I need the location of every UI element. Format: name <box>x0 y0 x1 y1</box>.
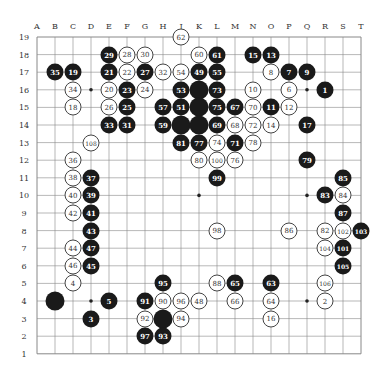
column-label: Q <box>304 22 311 31</box>
white-stone: 66 <box>227 293 244 310</box>
white-stone: 12 <box>281 99 298 116</box>
white-stone: 102 <box>335 222 352 239</box>
row-label: 11 <box>19 173 29 182</box>
black-stone <box>172 116 191 135</box>
white-stone: 74 <box>209 134 226 151</box>
black-stone: 31 <box>119 117 136 134</box>
black-stone: 61 <box>209 46 226 63</box>
white-stone: 44 <box>65 240 82 257</box>
white-stone: 36 <box>65 152 82 169</box>
black-stone: 67 <box>227 99 244 116</box>
white-stone: 8 <box>263 64 280 81</box>
black-stone: 83 <box>317 187 334 204</box>
white-stone: 88 <box>209 275 226 292</box>
column-label: H <box>160 22 167 31</box>
black-stone: 75 <box>209 99 226 116</box>
black-stone: 11 <box>263 99 280 116</box>
black-stone <box>190 80 209 99</box>
black-stone: 87 <box>335 205 352 222</box>
white-stone: 20 <box>101 81 118 98</box>
black-stone: 79 <box>299 152 316 169</box>
white-stone: 62 <box>173 29 190 46</box>
white-stone: 18 <box>65 99 82 116</box>
white-stone: 2 <box>317 293 334 310</box>
star-point <box>305 88 309 92</box>
column-label: D <box>88 22 94 31</box>
row-label: 7 <box>21 244 26 253</box>
white-stone: 96 <box>173 293 190 310</box>
black-stone: 25 <box>119 99 136 116</box>
white-stone: 28 <box>119 46 136 63</box>
white-stone: 70 <box>245 99 262 116</box>
white-stone: 82 <box>317 222 334 239</box>
black-stone: 3 <box>83 310 100 327</box>
black-stone <box>46 292 65 311</box>
black-stone: 95 <box>155 275 172 292</box>
white-stone: 84 <box>335 187 352 204</box>
black-stone: 27 <box>137 64 154 81</box>
row-label: 5 <box>21 279 26 288</box>
black-stone: 91 <box>137 293 154 310</box>
black-stone: 63 <box>263 275 280 292</box>
column-label: N <box>250 22 257 31</box>
white-stone: 90 <box>155 293 172 310</box>
row-label: 17 <box>19 68 29 77</box>
black-stone: 93 <box>155 328 172 345</box>
white-stone: 64 <box>263 293 280 310</box>
black-stone: 15 <box>245 46 262 63</box>
black-stone: 35 <box>47 64 64 81</box>
row-label: 13 <box>19 138 29 147</box>
white-stone: 106 <box>317 275 334 292</box>
white-stone: 92 <box>137 310 154 327</box>
column-label: S <box>340 22 345 31</box>
black-stone: 39 <box>83 187 100 204</box>
row-label: 8 <box>21 226 26 235</box>
white-stone: 6 <box>281 81 298 98</box>
black-stone: 53 <box>173 81 190 98</box>
white-stone: 94 <box>173 310 190 327</box>
white-stone: 32 <box>155 64 172 81</box>
black-stone: 13 <box>263 46 280 63</box>
row-label: 4 <box>21 297 26 306</box>
black-stone: 49 <box>191 64 208 81</box>
star-point <box>197 194 201 198</box>
white-stone: 68 <box>227 117 244 134</box>
white-stone: 60 <box>191 46 208 63</box>
black-stone: 103 <box>353 222 370 239</box>
column-label: L <box>214 22 219 31</box>
white-stone: 34 <box>65 81 82 98</box>
row-label: 6 <box>21 261 26 270</box>
black-stone: 43 <box>83 222 100 239</box>
row-label: 2 <box>21 332 26 341</box>
white-stone: 24 <box>137 81 154 98</box>
white-stone: 108 <box>83 134 100 151</box>
black-stone: 65 <box>227 275 244 292</box>
star-point <box>305 299 309 303</box>
row-label: 1 <box>21 349 26 358</box>
column-label: P <box>286 22 291 31</box>
black-stone: 21 <box>101 64 118 81</box>
white-stone: 40 <box>65 187 82 204</box>
white-stone: 76 <box>227 152 244 169</box>
white-stone: 4 <box>65 275 82 292</box>
row-label: 3 <box>21 314 26 323</box>
black-stone: 105 <box>335 257 352 274</box>
black-stone: 51 <box>173 99 190 116</box>
white-stone: 22 <box>119 64 136 81</box>
white-stone: 78 <box>245 134 262 151</box>
white-stone: 14 <box>263 117 280 134</box>
star-point <box>89 88 93 92</box>
black-stone: 97 <box>137 328 154 345</box>
black-stone: 71 <box>227 134 244 151</box>
black-stone: 47 <box>83 240 100 257</box>
row-label: 12 <box>19 156 29 165</box>
column-label: C <box>70 22 76 31</box>
black-stone: 69 <box>209 117 226 134</box>
column-label: M <box>231 22 239 31</box>
white-stone: 42 <box>65 205 82 222</box>
row-label: 16 <box>19 85 29 94</box>
white-stone: 54 <box>173 64 190 81</box>
column-label: T <box>358 22 363 31</box>
black-stone: 73 <box>209 81 226 98</box>
white-stone: 100 <box>209 152 226 169</box>
